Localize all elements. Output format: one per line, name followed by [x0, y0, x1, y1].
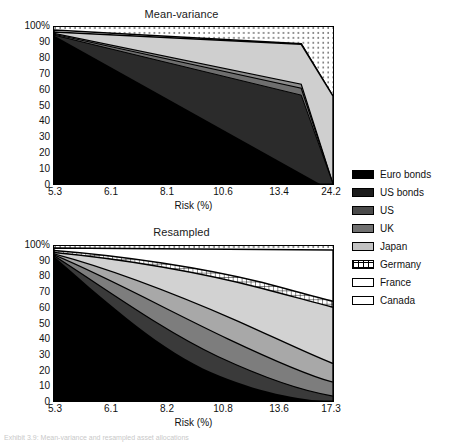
legend-swatch-icon — [352, 224, 374, 233]
legend-item-us: US — [352, 201, 452, 219]
stacked-area-svg-mean-variance — [54, 27, 333, 184]
x-tick: 8.1 — [160, 186, 174, 197]
legend-item-euro-bonds: Euro bonds — [352, 165, 452, 183]
y-tick: 100% — [24, 240, 50, 250]
legend-item-uk: UK — [352, 219, 452, 237]
figure-caption: Exhibit 3.9: Mean-variance and resampled… — [4, 433, 364, 442]
legend-label: Germany — [380, 259, 421, 270]
x-tick: 24.2 — [321, 186, 340, 197]
y-tick: 20 — [39, 148, 50, 158]
x-axis-mean-variance: 5.3 6.1 8.1 10.6 13.4 24.2 Risk (%) — [53, 186, 334, 214]
y-tick: 60 — [39, 85, 50, 95]
legend-label: Japan — [380, 241, 407, 252]
x-tick: 13.4 — [269, 186, 288, 197]
legend-swatch-icon — [352, 170, 374, 179]
y-tick: 70 — [39, 287, 50, 297]
y-tick: 10 — [39, 381, 50, 391]
legend-swatch-icon — [352, 188, 374, 197]
legend-item-france: France — [352, 273, 452, 291]
x-tick: 5.3 — [48, 186, 62, 197]
y-tick: 50 — [39, 101, 50, 111]
x-axis-resampled: 5.3 6.1 8.2 10.8 13.6 17.3 Risk (%) — [53, 403, 334, 431]
legend-swatch-icon — [352, 242, 374, 251]
y-tick: 40 — [39, 334, 50, 344]
plot-area-mean-variance — [53, 26, 334, 185]
stacked-area-svg-resampled — [54, 246, 333, 401]
x-tick: 13.6 — [269, 403, 288, 414]
legend-swatch-icon — [352, 260, 374, 269]
y-tick: 80 — [39, 53, 50, 63]
legend-swatch-icon — [352, 296, 374, 305]
y-tick: 20 — [39, 366, 50, 376]
legend-label: UK — [380, 223, 394, 234]
y-tick: 40 — [39, 116, 50, 126]
x-tick: 6.1 — [104, 403, 118, 414]
y-tick: 90 — [39, 37, 50, 47]
y-tick: 80 — [39, 271, 50, 281]
legend-swatch-icon — [352, 278, 374, 287]
legend-label: Euro bonds — [380, 169, 431, 180]
chart-title-resampled: Resampled — [0, 226, 345, 238]
x-tick: 10.8 — [213, 403, 232, 414]
plot-area-resampled — [53, 245, 334, 402]
y-tick: 60 — [39, 303, 50, 313]
y-tick: 30 — [39, 132, 50, 142]
chart-title-mean-variance: Mean-variance — [0, 8, 345, 20]
y-tick: 10 — [39, 164, 50, 174]
figure-stacked-asset-allocation: Mean-variance 100% 90 80 70 60 50 40 30 … — [0, 0, 453, 442]
x-tick: 6.1 — [104, 186, 118, 197]
legend-label: Canada — [380, 295, 415, 306]
legend-label: US — [380, 205, 394, 216]
x-tick: 8.2 — [160, 403, 174, 414]
plot-frame-resampled — [53, 245, 334, 402]
legend-item-japan: Japan — [352, 237, 452, 255]
legend-swatch-icon — [352, 206, 374, 215]
x-axis-label-resampled: Risk (%) — [53, 417, 334, 428]
y-tick: 30 — [39, 350, 50, 360]
legend-label: France — [380, 277, 411, 288]
y-tick: 100% — [24, 21, 50, 31]
x-tick: 5.3 — [48, 403, 62, 414]
legend-label: US bonds — [380, 187, 424, 198]
x-tick: 10.6 — [213, 186, 232, 197]
y-tick: 50 — [39, 319, 50, 329]
plot-frame-mean-variance — [53, 26, 334, 185]
y-tick: 70 — [39, 69, 50, 79]
legend-item-us-bonds: US bonds — [352, 183, 452, 201]
legend-item-canada: Canada — [352, 291, 452, 309]
chart-legend: Euro bonds US bonds US UK Japan Germany … — [352, 165, 452, 309]
y-axis-resampled: 100% 90 80 70 60 50 40 30 20 10 0 — [2, 245, 50, 402]
x-tick: 17.3 — [321, 403, 340, 414]
y-tick: 90 — [39, 256, 50, 266]
y-axis-mean-variance: 100% 90 80 70 60 50 40 30 20 10 0 — [2, 26, 50, 185]
x-axis-label-mean-variance: Risk (%) — [53, 200, 334, 211]
legend-item-germany: Germany — [352, 255, 452, 273]
